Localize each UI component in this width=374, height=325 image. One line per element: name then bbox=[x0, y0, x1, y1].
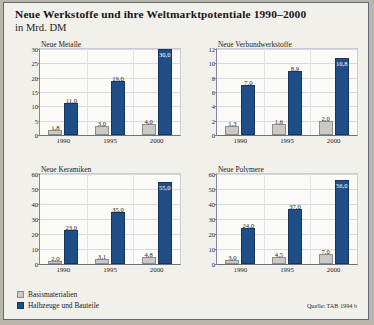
bar-basismaterialien-1990: 2,0 bbox=[48, 261, 62, 264]
y-axis-tickmark bbox=[38, 264, 40, 265]
y-axis-tick-label: 10 bbox=[208, 246, 215, 253]
bar-basismaterialien-1995: 3,1 bbox=[95, 259, 109, 264]
bar-halbzeuge-und-bauteile-2000: 55,0 bbox=[158, 182, 172, 265]
y-axis-tick-label: 20 bbox=[31, 74, 38, 81]
y-axis-tickmark bbox=[215, 264, 217, 265]
y-axis-tick-label: 5 bbox=[35, 117, 38, 124]
bar-halbzeuge-und-bauteile-1995: 37,0 bbox=[288, 209, 302, 265]
bar-group: 3,019,01995 bbox=[87, 49, 134, 135]
bar-halbzeuge-und-bauteile-2000: 10,8 bbox=[335, 58, 349, 135]
y-axis-tick-label: 15 bbox=[31, 89, 38, 96]
bar-basismaterialien-1995: 4,5 bbox=[272, 257, 286, 264]
legend-label: Halbzeuge und Bauteile bbox=[28, 301, 99, 310]
chart-panel-neue-metalle: Neue Metalle 0510152025301,811,019903,01… bbox=[21, 41, 181, 149]
x-axis-tick-label: 1990 bbox=[57, 137, 71, 144]
y-axis-tick-label: 0 bbox=[35, 132, 38, 139]
bar-group: 2,010,82000 bbox=[310, 49, 357, 135]
figure-header: Neue Werkstoffe und ihre Weltmarktpotent… bbox=[15, 8, 355, 34]
bar-halbzeuge-und-bauteile-1990: 11,0 bbox=[64, 103, 78, 135]
bar-value-label: 7,0 bbox=[322, 248, 330, 255]
bar-value-label: 24,0 bbox=[243, 222, 255, 229]
bar-basismaterialien-2000: 4,0 bbox=[142, 124, 156, 135]
legend-swatch-basismaterialien bbox=[17, 291, 24, 298]
bar-value-label: 55,0 bbox=[159, 184, 171, 191]
bar-value-label: 3,1 bbox=[98, 253, 106, 260]
y-axis-tick-label: 10 bbox=[31, 103, 38, 110]
bar-basismaterialien-1990: 1,8 bbox=[48, 130, 62, 135]
bar-halbzeuge-und-bauteile-1990: 7,0 bbox=[241, 85, 255, 135]
bar-group: 1,37,01990 bbox=[217, 49, 264, 135]
y-axis-tick-label: 40 bbox=[31, 201, 38, 208]
y-axis-tick-label: 50 bbox=[208, 186, 215, 193]
y-axis-tick-label: 20 bbox=[31, 231, 38, 238]
bar-value-label: 2,0 bbox=[51, 255, 59, 262]
bar-basismaterialien-2000: 2,0 bbox=[319, 121, 333, 135]
bar-value-label: 4,8 bbox=[145, 251, 153, 258]
y-axis-tick-label: 30 bbox=[208, 216, 215, 223]
bar-group: 1,811,01990 bbox=[40, 49, 87, 135]
x-axis-tick-label: 2000 bbox=[150, 137, 164, 144]
bar-group: 3,024,01990 bbox=[217, 174, 264, 264]
bar-value-label: 1,8 bbox=[51, 124, 59, 131]
y-axis-tick-label: 30 bbox=[31, 216, 38, 223]
y-axis-tick-label: 12 bbox=[208, 46, 215, 53]
bar-halbzeuge-und-bauteile-1995: 35,0 bbox=[111, 212, 125, 265]
chart-panel-neue-polymere: Neue Polymere 01020304050603,024,019904,… bbox=[198, 166, 358, 278]
bar-value-label: 35,0 bbox=[112, 206, 124, 213]
legend-label: Basismaterialien bbox=[28, 290, 77, 299]
plot-area: 01020304050603,024,019904,537,019957,056… bbox=[216, 173, 358, 265]
plot-area: 01020304050602,023,019903,135,019954,855… bbox=[39, 173, 181, 265]
legend: Basismaterialien Halbzeuge und Bauteile bbox=[17, 289, 99, 311]
bar-value-label: 30,0 bbox=[159, 51, 171, 58]
y-axis-tick-label: 0 bbox=[212, 132, 215, 139]
y-axis-tick-label: 30 bbox=[31, 46, 38, 53]
bar-halbzeuge-und-bauteile-1990: 24,0 bbox=[241, 228, 255, 264]
bar-group: 1,68,91995 bbox=[264, 49, 311, 135]
bar-value-label: 3,0 bbox=[228, 254, 236, 261]
bar-value-label: 1,6 bbox=[275, 118, 283, 125]
bar-value-label: 4,5 bbox=[275, 251, 283, 258]
figure-container: Neue Werkstoffe und ihre Weltmarktpotent… bbox=[3, 2, 369, 320]
bar-basismaterialien-1995: 1,6 bbox=[272, 124, 286, 135]
x-axis-tick-label: 1995 bbox=[280, 137, 294, 144]
bar-group: 7,056,02000 bbox=[310, 174, 357, 264]
bar-group: 4,030,02000 bbox=[133, 49, 180, 135]
x-axis-tick-label: 2000 bbox=[327, 137, 341, 144]
bar-value-label: 23,0 bbox=[66, 224, 78, 231]
bar-halbzeuge-und-bauteile-1995: 19,0 bbox=[111, 81, 125, 135]
y-axis-tickmark bbox=[215, 135, 217, 136]
page-title: Neue Werkstoffe und ihre Weltmarktpotent… bbox=[15, 8, 355, 21]
bar-halbzeuge-und-bauteile-1995: 8,9 bbox=[288, 71, 302, 135]
bar-value-label: 7,0 bbox=[244, 79, 252, 86]
bar-basismaterialien-2000: 7,0 bbox=[319, 254, 333, 265]
source-note: Quelle: TAB 1994 b bbox=[307, 302, 357, 309]
bar-halbzeuge-und-bauteile-2000: 56,0 bbox=[335, 180, 349, 264]
y-axis-tick-label: 10 bbox=[208, 60, 215, 67]
bar-basismaterialien-2000: 4,8 bbox=[142, 257, 156, 264]
y-axis-tick-label: 25 bbox=[31, 60, 38, 67]
plot-area: 0510152025301,811,019903,019,019954,030,… bbox=[39, 48, 181, 136]
figure-subtitle: in Mrd. DM bbox=[15, 22, 355, 34]
bar-basismaterialien-1990: 3,0 bbox=[225, 260, 239, 265]
bar-value-label: 37,0 bbox=[289, 203, 301, 210]
y-axis-tick-label: 60 bbox=[208, 171, 215, 178]
y-axis-tickmark bbox=[38, 135, 40, 136]
bar-value-label: 8,9 bbox=[291, 65, 299, 72]
y-axis-tick-label: 2 bbox=[212, 117, 215, 124]
bar-halbzeuge-und-bauteile-2000: 30,0 bbox=[158, 49, 172, 135]
chart-panel-neue-verbundwerkstoffe: Neue Verbundwerkstoffe 0246810121,37,019… bbox=[198, 41, 358, 149]
bar-basismaterialien-1995: 3,0 bbox=[95, 126, 109, 135]
bar-group: 2,023,01990 bbox=[40, 174, 87, 264]
bar-value-label: 56,0 bbox=[336, 182, 348, 189]
x-axis-tick-label: 1995 bbox=[103, 266, 117, 273]
y-axis-tick-label: 0 bbox=[212, 261, 215, 268]
bar-value-label: 19,0 bbox=[112, 75, 124, 82]
x-axis-tick-label: 2000 bbox=[150, 266, 164, 273]
legend-item: Halbzeuge und Bauteile bbox=[17, 300, 99, 310]
x-axis-tick-label: 1990 bbox=[57, 266, 71, 273]
y-axis-tick-label: 60 bbox=[31, 171, 38, 178]
bar-group: 4,537,01995 bbox=[264, 174, 311, 264]
bar-group: 3,135,01995 bbox=[87, 174, 134, 264]
x-axis-tick-label: 2000 bbox=[327, 266, 341, 273]
y-axis-tick-label: 50 bbox=[31, 186, 38, 193]
